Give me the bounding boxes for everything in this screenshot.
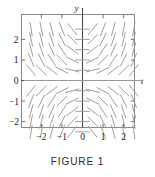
tick-marks	[22, 15, 135, 128]
ytick-label-2: 2	[14, 35, 19, 45]
plot-frame	[22, 15, 135, 128]
slope-segment	[129, 65, 138, 76]
figure-caption: FIGURE 1	[0, 156, 155, 167]
slope-segment	[57, 55, 67, 65]
slope-segment	[59, 22, 64, 36]
ytick-label-minus2: −2	[9, 117, 19, 127]
slope-segments	[24, 22, 141, 139]
slope-segment	[96, 87, 109, 94]
xtick-label-2: 0	[80, 132, 85, 142]
xtick-label-3: 1	[101, 132, 106, 142]
ytick-label-minus1: −1	[9, 97, 19, 107]
xtick-label-4: 2	[121, 132, 126, 142]
xtick-label-0: −2	[36, 132, 46, 142]
slope-segment	[55, 67, 68, 74]
slope-segment	[57, 96, 67, 106]
slope-segment	[118, 65, 128, 75]
slope-segment	[129, 85, 138, 96]
slope-segment	[36, 65, 46, 75]
y-axis-label: y	[74, 3, 79, 13]
slope-segment	[55, 87, 68, 94]
slope-segment	[98, 55, 108, 65]
figure-container: y t −2 −1 0 1 2 2 1 0 −1 −2 FIGURE 1	[0, 0, 155, 177]
slope-segment	[118, 86, 128, 96]
ytick-label-0: 0	[14, 76, 19, 86]
slope-segment	[27, 65, 36, 76]
xtick-label-1: −1	[57, 132, 67, 142]
slope-segment	[27, 85, 36, 96]
ytick-label-1: 1	[14, 55, 19, 65]
slope-segment	[100, 22, 105, 36]
plot-svg: y t −2 −1 0 1 2 2 1 0 −1 −2	[0, 0, 155, 155]
slope-segment	[96, 67, 109, 74]
direction-field-plot: y t −2 −1 0 1 2 2 1 0 −1 −2	[0, 0, 155, 155]
slope-segment	[36, 86, 46, 96]
t-axis-label: t	[141, 76, 144, 86]
slope-segment	[98, 96, 108, 106]
